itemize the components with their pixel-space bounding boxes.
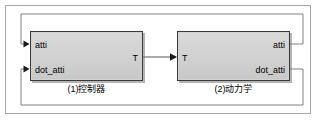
block-dynamics[interactable]: T atti dot_atti	[177, 31, 290, 81]
block-controller[interactable]: atti dot_atti T	[30, 31, 143, 81]
port-dynamics-in-T: T	[182, 53, 188, 63]
port-controller-out-T: T	[133, 53, 139, 63]
port-controller-in-atti: atti	[35, 40, 47, 50]
caption-controller: (1)控制器	[30, 84, 143, 95]
port-controller-in-dot-atti: dot_atti	[35, 65, 65, 75]
port-dynamics-out-atti: atti	[273, 40, 285, 50]
port-dynamics-out-dot-atti: dot_atti	[255, 65, 285, 75]
caption-dynamics: (2)动力学	[177, 84, 290, 95]
block-diagram: atti dot_atti T (1)控制器 T atti dot_atti (…	[0, 0, 317, 120]
